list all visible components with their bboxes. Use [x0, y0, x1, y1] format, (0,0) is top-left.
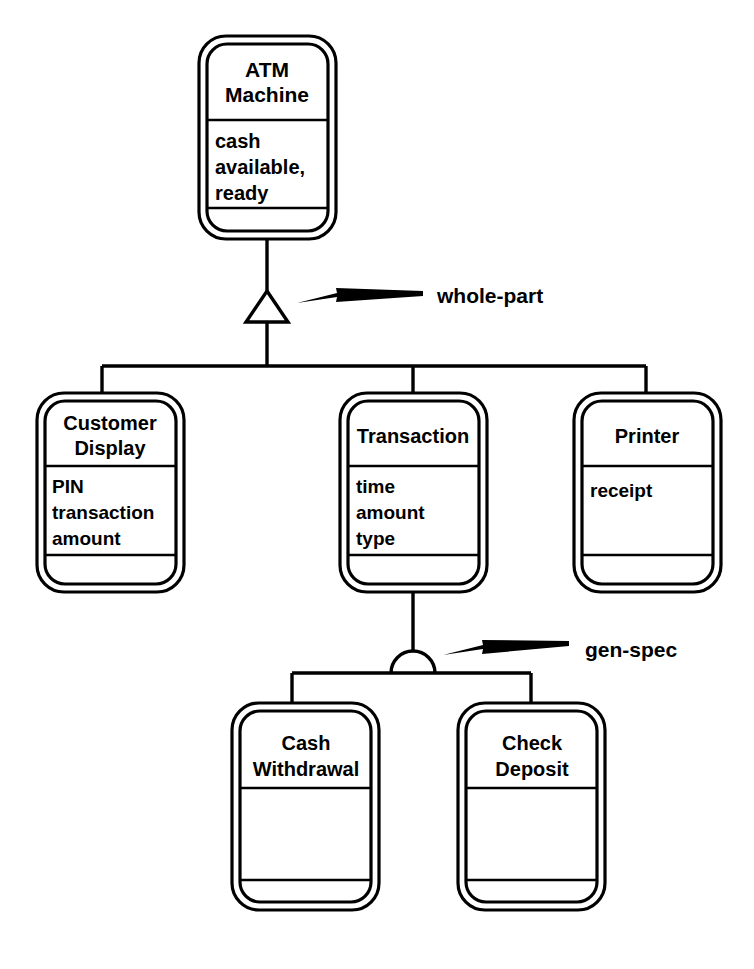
class-box-check-deposit[interactable]: Check Deposit [458, 703, 605, 910]
customer-display-attribute-0: PIN [52, 476, 84, 497]
printer-attribute-0: receipt [590, 480, 653, 501]
atm-machine-attribute-2: ready [215, 182, 269, 204]
cash-withdrawal-name-line-1: Withdrawal [253, 758, 360, 780]
transaction-attribute-0: time [356, 476, 395, 497]
gen-spec-arrow-icon [443, 640, 569, 655]
class-box-atm-machine[interactable]: ATM Machine cash available, ready [199, 36, 336, 239]
atm-machine-attribute-0: cash [215, 130, 261, 152]
atm-machine-name-line-1: Machine [225, 83, 309, 106]
semicircle-icon [391, 651, 435, 673]
class-box-cash-withdrawal[interactable]: Cash Withdrawal [232, 703, 379, 910]
customer-display-name-line-0: Customer [63, 412, 157, 434]
whole-part-annotation-label: whole-part [436, 284, 543, 307]
hollow-triangle-icon [246, 291, 288, 322]
whole-part-connector-group [102, 238, 646, 393]
whole-part-arrow-icon [297, 288, 423, 303]
transaction-name-line-0: Transaction [357, 425, 469, 447]
transaction-attribute-1: amount [356, 502, 425, 523]
class-box-printer[interactable]: Printer receipt [574, 393, 721, 592]
uml-class-diagram: ATM Machine cash available, ready Custom… [0, 0, 754, 969]
gen-spec-annotation-label: gen-spec [585, 638, 678, 661]
annotation-gen-spec: gen-spec [443, 638, 678, 661]
class-box-customer-display[interactable]: Customer Display PIN transaction amount [37, 393, 184, 592]
customer-display-attribute-2: amount [52, 528, 121, 549]
customer-display-attribute-1: transaction [52, 502, 154, 523]
cash-withdrawal-name-line-0: Cash [282, 732, 331, 754]
check-deposit-name-line-0: Check [502, 732, 563, 754]
diagram-canvas: ATM Machine cash available, ready Custom… [0, 0, 754, 969]
printer-name-line-0: Printer [615, 425, 680, 447]
transaction-attribute-2: type [356, 528, 395, 549]
annotation-whole-part: whole-part [297, 284, 543, 307]
check-deposit-name-line-1: Deposit [495, 758, 569, 780]
class-box-transaction[interactable]: Transaction time amount type [340, 393, 487, 592]
atm-machine-name-line-0: ATM [245, 58, 289, 81]
atm-machine-attribute-1: available, [215, 156, 305, 178]
customer-display-name-line-1: Display [74, 437, 146, 459]
